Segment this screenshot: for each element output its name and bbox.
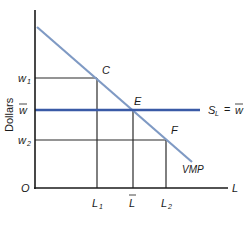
y-tick-w1: w 1 — [18, 72, 31, 85]
svg-text:=: = — [224, 103, 230, 115]
point-F-label: F — [171, 124, 179, 136]
x-tick-L2: L 2 — [161, 197, 172, 210]
origin-label: O — [21, 182, 30, 194]
guide-lines — [35, 78, 166, 188]
svg-text:w: w — [235, 104, 244, 116]
point-C-label: C — [102, 64, 110, 76]
labor-market-chart: Dollars w 1 w w 2 O L 1 L L 2 L C E F VM… — [0, 0, 250, 227]
svg-text:L: L — [215, 110, 219, 117]
supply-label: S L = w — [208, 103, 244, 117]
svg-text:w: w — [18, 72, 27, 84]
svg-text:2: 2 — [26, 140, 31, 147]
point-E-label: E — [134, 95, 142, 107]
svg-text:1: 1 — [27, 78, 31, 85]
svg-text:L: L — [161, 197, 167, 209]
x-tick-Lbar: L — [129, 195, 136, 209]
x-tick-L1: L 1 — [92, 197, 103, 210]
svg-text:w: w — [18, 134, 27, 146]
svg-text:L: L — [129, 197, 135, 209]
vmp-curve — [37, 27, 192, 162]
svg-text:L: L — [92, 197, 98, 209]
x-axis-label: L — [232, 182, 238, 194]
svg-text:2: 2 — [167, 203, 172, 210]
vmp-label: VMP — [182, 164, 204, 175]
y-axis-label: Dollars — [3, 97, 15, 132]
svg-text:w: w — [19, 104, 28, 116]
svg-text:1: 1 — [99, 203, 103, 210]
y-tick-wbar: w — [19, 104, 28, 116]
y-tick-w2: w 2 — [18, 134, 31, 147]
